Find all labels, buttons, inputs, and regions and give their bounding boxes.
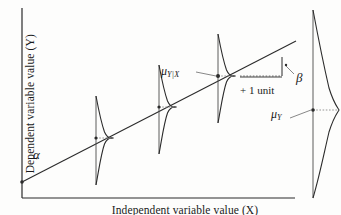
marginal-distribution-curve (313, 10, 339, 198)
distribution-3-mean-point (216, 74, 220, 78)
marginal-mean-point (311, 108, 315, 112)
mu-marginal-label: μY (271, 108, 282, 122)
mu-marginal-subscript: Y (277, 113, 282, 122)
mu-marginal-leader-line (290, 110, 311, 118)
distribution-1-curve (96, 96, 114, 185)
distribution-2-mean-point (157, 105, 160, 108)
marginal-distribution-y (311, 10, 339, 198)
intercept-point (20, 180, 24, 184)
y-axis-title: Dependent variable value (Y) (25, 19, 37, 189)
mu-conditional-label: μY|X (161, 65, 179, 79)
conditional-distribution-3 (216, 34, 236, 123)
alpha-intercept-label: α (33, 148, 40, 161)
regression-distribution-diagram: Dependent variable value (Y) Independent… (0, 0, 341, 215)
one-unit-label: + 1 unit (240, 85, 274, 96)
beta-slope-label: β (296, 71, 302, 84)
x-axis-title: Independent variable value (X) (90, 205, 280, 215)
distribution-1-mean-point (94, 136, 97, 139)
beta-leader-point (285, 64, 287, 66)
conditional-distribution-1 (94, 96, 113, 185)
distribution-3-curve (218, 34, 236, 123)
diagram-canvas (0, 0, 341, 215)
mu-conditional-leader-line (196, 72, 216, 76)
beta-leader-line (286, 66, 294, 74)
mu-conditional-subscript: Y|X (167, 70, 179, 79)
